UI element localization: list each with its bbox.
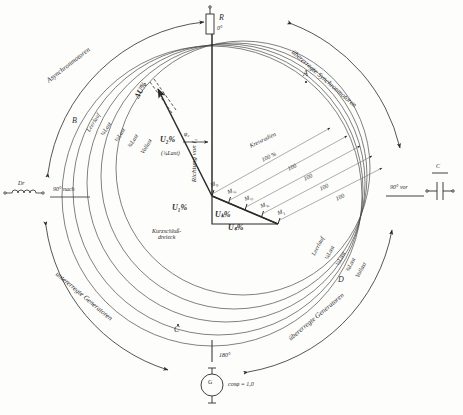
- radius-leader-4: [262, 156, 372, 214]
- label-u1-percent: U₁%: [172, 204, 187, 212]
- capacitor-terminal-left: [426, 190, 428, 192]
- key-points: [177, 81, 307, 326]
- label-us-percent: Uₛ%: [228, 224, 243, 232]
- label-inductor-dr: Dr: [18, 180, 25, 186]
- inductor-terminal-right: [42, 192, 44, 194]
- kurzschluss-line1: Kurzschluß-: [152, 228, 181, 234]
- label-angle-90-nach: 90° nach: [53, 186, 75, 192]
- kurzschluss-line2: dreieck: [158, 234, 175, 240]
- label-phi2: φ₂: [184, 131, 189, 137]
- point-label-d: D: [338, 276, 344, 284]
- label-cos-phi: cosφ = 1,0: [228, 381, 254, 387]
- point-a-dot: [305, 81, 307, 83]
- load-circle-family: [62, 41, 370, 346]
- point-label-a: A: [303, 70, 308, 78]
- delta-u-dashed-2: [154, 79, 176, 110]
- label-u2-load-note: (¾Last): [161, 150, 180, 156]
- resistor-terminal: [209, 6, 211, 8]
- delta-u-dashed-1: [150, 82, 172, 113]
- arc-untererregte-generatoren: [46, 226, 168, 370]
- capacitor-terminal-right: [452, 190, 454, 192]
- arc-asynchronmotoren: [48, 22, 204, 173]
- inductor-terminal-left: [4, 192, 6, 194]
- label-uk-percent: Uₖ%: [215, 211, 230, 219]
- label-angle-90-vor: 90° vor: [390, 184, 408, 190]
- label-resistor-r: R: [219, 14, 224, 22]
- label-kurzschluss-dreieck: Kurzschluß- dreieck: [152, 228, 181, 241]
- arc-uebererregte-generatoren: [248, 230, 392, 372]
- quadrant-arcs: [46, 22, 400, 372]
- label-u2-percent: U₂%: [160, 136, 175, 144]
- resistor-symbol: [206, 6, 214, 34]
- label-richtung-von-i2: Richtung von I₂: [191, 139, 198, 183]
- inductor-coil: [12, 190, 36, 193]
- label-angle-180: 180°: [219, 352, 230, 358]
- inductor-symbol: [4, 190, 90, 197]
- radius-leader-5: [278, 168, 382, 221]
- point-label-b: B: [72, 117, 77, 125]
- diagram-page: Asynchronmotoren übererregte Synchronmot…: [0, 0, 463, 415]
- resistor-body: [206, 14, 214, 34]
- label-angle-0: 0°: [217, 25, 222, 31]
- arc-synchronmotoren: [292, 24, 400, 148]
- generator-symbol: [201, 368, 223, 403]
- point-label-c: C: [174, 326, 179, 334]
- label-capacitor-c: C: [436, 163, 440, 169]
- label-generator-g: G: [208, 379, 212, 385]
